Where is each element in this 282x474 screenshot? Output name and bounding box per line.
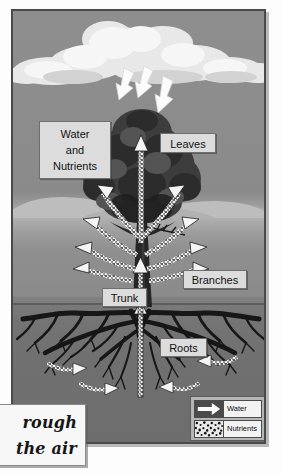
annotation-line-2: the air xyxy=(0,436,77,462)
legend: Water xyxy=(190,396,266,441)
legend-row-water: Water xyxy=(194,400,262,418)
label-line-and: and xyxy=(44,142,106,158)
page-canvas: Water and Nutrients Leaves Branches Trun… xyxy=(0,0,282,474)
legend-label-water: Water xyxy=(224,400,262,418)
handwritten-annotation-note: rough the air xyxy=(0,404,86,466)
annotation-line-1: rough xyxy=(0,410,77,436)
label-branches: Branches xyxy=(183,270,247,289)
water-arrow-icon xyxy=(194,400,224,418)
legend-row-nutrients: Nutrients xyxy=(194,420,262,438)
label-water-and-nutrients: Water and Nutrients xyxy=(39,121,111,179)
label-roots: Roots xyxy=(160,338,207,357)
label-line-nutrients: Nutrients xyxy=(44,158,106,174)
nutrients-pattern-icon xyxy=(194,420,224,438)
label-leaves: Leaves xyxy=(160,133,216,153)
label-line-water: Water xyxy=(44,126,106,142)
label-trunk: Trunk xyxy=(102,288,147,307)
tree-transport-diagram: Water and Nutrients Leaves Branches Trun… xyxy=(11,9,266,444)
legend-label-nutrients: Nutrients xyxy=(224,420,262,438)
